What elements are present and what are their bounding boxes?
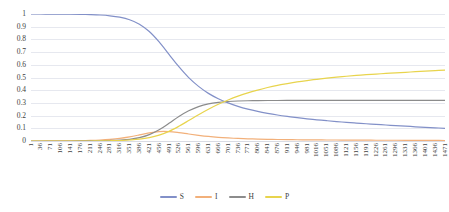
x-axis-tick-label: 771 — [244, 143, 251, 154]
x-axis-tick-label: 1016 — [313, 143, 320, 157]
series-line-s — [31, 14, 445, 128]
series-line-p — [31, 70, 445, 141]
x-axis-tick-label: 561 — [185, 143, 192, 154]
legend-label: I — [215, 193, 218, 201]
x-axis-tick-label: 1366 — [412, 143, 419, 157]
x-axis-tick-label: 1471 — [442, 143, 449, 157]
x-axis-tick-label: 911 — [284, 143, 291, 153]
x-axis-tick-label: 841 — [264, 143, 271, 154]
x-axis-tick-label: 1121 — [343, 143, 350, 157]
y-axis-tick-label: 1 — [22, 10, 26, 18]
legend-label: H — [249, 193, 254, 201]
x-axis-tick-label: 596 — [195, 143, 202, 154]
plot-area — [31, 14, 445, 141]
x-axis-tick-label: 876 — [274, 143, 281, 154]
legend-swatch-icon — [229, 196, 246, 198]
x-axis-tick-label: 1331 — [402, 143, 409, 157]
x-axis-tick-label: 526 — [175, 143, 182, 154]
x-axis-tick-label: 211 — [87, 143, 94, 153]
x-axis-tick-label: 1261 — [382, 143, 389, 157]
y-axis-tick-label: 0.8 — [17, 36, 26, 44]
chart-legend: SIHP — [0, 190, 449, 204]
legend-item-h[interactable]: H — [229, 193, 254, 201]
x-axis-tick-label: 946 — [294, 143, 301, 154]
y-axis-tick-label: 0.4 — [17, 86, 26, 94]
y-axis-tick-label: 0.5 — [17, 74, 26, 82]
x-axis-tick-label: 806 — [254, 143, 261, 154]
x-axis-tick-label: 36 — [37, 143, 44, 150]
x-axis-tick-label: 981 — [304, 143, 311, 154]
legend-swatch-icon — [195, 196, 212, 198]
x-axis-tick-label: 1156 — [353, 143, 360, 157]
y-axis-tick-label: 0.7 — [17, 48, 26, 56]
x-axis-tick-label: 736 — [235, 143, 242, 154]
x-axis-tick-label: 141 — [67, 143, 74, 154]
x-axis-tick-label: 1436 — [432, 143, 439, 157]
x-axis-tick-label: 106 — [57, 143, 64, 154]
series-line-i — [31, 131, 445, 141]
y-axis: 00.10.20.30.40.50.60.70.80.91 — [0, 0, 29, 141]
x-axis-tick-label: 1086 — [333, 143, 340, 157]
x-axis-tick-label: 1401 — [422, 143, 429, 157]
line-chart: 00.10.20.30.40.50.60.70.80.91 1367110614… — [0, 0, 449, 212]
x-axis-tick-label: 1 — [28, 143, 35, 147]
x-axis-tick-label: 176 — [77, 143, 84, 154]
x-axis-tick-label: 421 — [146, 143, 153, 154]
x-axis-tick-label: 1296 — [392, 143, 399, 157]
x-axis-tick-label: 1051 — [323, 143, 330, 157]
x-axis-tick-label: 316 — [116, 143, 123, 154]
legend-swatch-icon — [160, 196, 177, 198]
x-axis-tick-label: 701 — [225, 143, 232, 154]
x-axis-tick-label: 456 — [156, 143, 163, 154]
x-axis-tick-label: 1226 — [373, 143, 380, 157]
legend-item-s[interactable]: S — [160, 193, 184, 201]
x-axis-tick-label: 281 — [106, 143, 113, 154]
x-axis-tick-label: 1191 — [363, 143, 370, 157]
y-axis-tick-label: 0.9 — [17, 23, 26, 31]
x-axis-tick-label: 631 — [205, 143, 212, 154]
y-axis-tick-label: 0.6 — [17, 61, 26, 69]
x-axis-tick-label: 246 — [97, 143, 104, 154]
legend-item-p[interactable]: P — [265, 193, 289, 201]
legend-label: P — [285, 193, 289, 201]
y-axis-tick-label: 0.3 — [17, 99, 26, 107]
x-axis-tick-label: 351 — [126, 143, 133, 154]
x-axis-tick-label: 491 — [166, 143, 173, 154]
legend-item-i[interactable]: I — [195, 193, 218, 201]
legend-label: S — [180, 193, 184, 201]
y-axis-tick-label: 0 — [22, 137, 26, 145]
x-axis-tick-label: 666 — [215, 143, 222, 154]
y-axis-tick-label: 0.1 — [17, 125, 26, 133]
x-axis-tick-label: 386 — [136, 143, 143, 154]
series-lines — [31, 14, 445, 141]
x-axis-tick-label: 71 — [47, 143, 54, 150]
x-axis: 1367110614117621124628131635138642145649… — [31, 143, 445, 188]
legend-swatch-icon — [265, 196, 282, 198]
y-axis-tick-label: 0.2 — [17, 112, 26, 120]
